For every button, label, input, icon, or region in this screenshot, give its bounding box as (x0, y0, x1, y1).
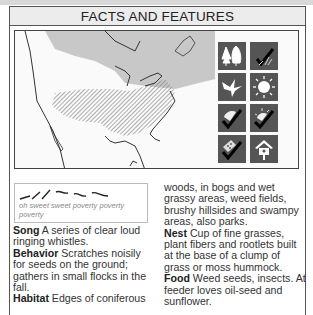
checkmark-grass-icon (250, 42, 278, 70)
bird-flying-icon (218, 73, 246, 101)
fact-label: Food (164, 272, 190, 284)
forest-icon (218, 42, 246, 70)
fact-behavior: Behavior Scratches noisily for seeds on … (13, 248, 153, 294)
fact-label: Habitat (13, 292, 49, 304)
fact-label: Nest (164, 227, 187, 239)
fact-habitat-cont: woods, in bogs and wet grassy areas, wee… (164, 182, 306, 228)
song-sonogram-icon (18, 187, 118, 201)
sun-icon (250, 73, 278, 101)
checkmark-nest-cup-icon (218, 104, 246, 132)
facts-column-right: woods, in bogs and wet grassy areas, wee… (164, 182, 306, 307)
top-bar (0, 0, 313, 5)
fact-song: Song A series of clear loud ringing whis… (13, 225, 153, 248)
checkmark-sun-nest-icon (250, 104, 278, 132)
page-title: FACTS AND FEATURES (10, 7, 305, 26)
fact-food: Food Weed seeds, insects. At feeder love… (164, 273, 306, 307)
fact-label: Song (13, 224, 39, 236)
habitat-icons-grid (218, 42, 280, 162)
fact-label: Behavior (13, 247, 58, 259)
song-phrase: oh sweet sweet poverty poverty poverty (19, 202, 147, 219)
facts-column-left: Song A series of clear loud ringing whis… (13, 225, 153, 305)
fact-habitat-start: Habitat Edges of coniferous (13, 293, 153, 304)
birdhouse-icon (250, 135, 278, 163)
checkmark-feeder-icon (218, 135, 246, 163)
fact-nest: Nest Cup of fine grasses, plant fibers a… (164, 228, 306, 274)
song-box: oh sweet sweet poverty poverty poverty (14, 183, 148, 223)
